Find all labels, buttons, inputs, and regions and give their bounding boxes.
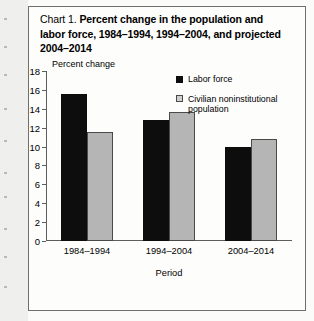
chart-title-line-1: Percent change in the population and — [79, 13, 263, 25]
y-axis-tick-label: 14 — [18, 103, 40, 114]
chart-title-line-3: 2004–2014 — [40, 42, 92, 54]
x-axis-tick-label: 2004–2014 — [228, 246, 275, 256]
chart-title: Chart 1. Percent change in the populatio… — [40, 12, 292, 56]
y-axis-tick-label: 16 — [18, 84, 40, 95]
y-axis-title: Percent change — [52, 59, 115, 69]
legend-swatch-icon — [176, 76, 183, 83]
bar — [61, 94, 87, 241]
margin-speck — [4, 228, 7, 230]
bar — [87, 132, 113, 241]
y-axis-tick-label: 18 — [18, 66, 40, 77]
margin-speck — [4, 256, 7, 258]
legend-item: Civilian noninstitutional population — [176, 94, 300, 115]
y-axis-tick-label: 12 — [18, 122, 40, 133]
y-axis-tick-label: 2 — [18, 217, 40, 228]
legend-item: Labor force — [176, 74, 300, 85]
legend-label: Labor force — [188, 74, 233, 84]
legend-swatch-icon — [176, 95, 183, 102]
y-axis-tick-label: 4 — [18, 198, 40, 209]
margin-speck — [4, 172, 7, 174]
y-axis-tick-label: 0 — [18, 236, 40, 247]
bar — [251, 139, 277, 241]
bar — [225, 147, 251, 241]
bar — [143, 120, 169, 241]
x-axis-tick-label: 1984–1994 — [64, 246, 111, 256]
margin-speck — [4, 196, 7, 198]
bar-group — [61, 71, 113, 241]
x-axis-tick-labels: 1984–19941994–20042004–2014 — [46, 246, 292, 260]
y-axis-tick-label: 6 — [18, 179, 40, 190]
chart-legend: Labor forceCivilian noninstitutional pop… — [176, 74, 300, 124]
margin-speck — [4, 46, 7, 48]
x-axis-title: Period — [46, 268, 292, 278]
margin-speck — [4, 286, 7, 288]
margin-speck — [4, 18, 7, 20]
y-axis-tick-label: 10 — [18, 141, 40, 152]
chart-number-label: Chart 1. — [40, 13, 77, 25]
margin-speck — [4, 140, 7, 142]
x-axis-tick-label: 1994–2004 — [146, 246, 193, 256]
margin-speck — [4, 74, 7, 76]
margin-speck — [4, 108, 7, 110]
legend-label: Civilian noninstitutional population — [188, 94, 278, 115]
bar — [169, 112, 195, 241]
chart-figure: Chart 1. Percent change in the populatio… — [0, 0, 314, 321]
chart-title-line-2: labor force, 1984–1994, 1994–2004, and p… — [40, 28, 281, 40]
y-axis-tick — [42, 241, 46, 242]
y-axis-tick-label: 8 — [18, 160, 40, 171]
